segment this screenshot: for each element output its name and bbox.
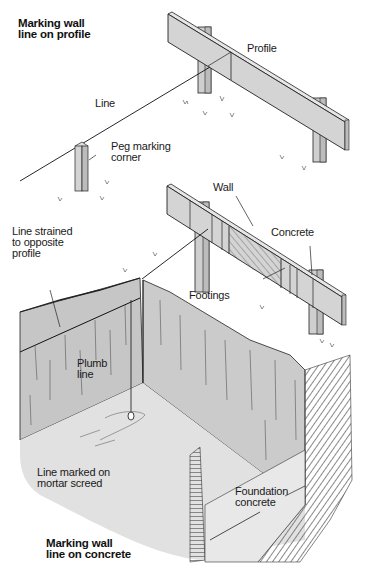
label-profile: Profile xyxy=(247,43,277,54)
label-plumb-line: Plumb line xyxy=(77,358,107,380)
label-foundation-concrete: Foundation concrete xyxy=(235,486,288,508)
label-peg-marking-corner: Peg marking corner xyxy=(111,141,171,163)
title-marking-on-profile: Marking wall line on profile xyxy=(18,18,90,40)
corner-peg xyxy=(75,142,96,191)
label-line-marked-screed: Line marked on mortar screed xyxy=(37,467,110,489)
excavation xyxy=(20,278,352,562)
label-line-strained: Line strained to opposite profile xyxy=(12,226,72,259)
label-footings: Footings xyxy=(189,290,230,301)
label-line: Line xyxy=(95,98,115,109)
title-marking-on-concrete: Marking wall line on concrete xyxy=(46,538,131,560)
label-concrete: Concrete xyxy=(271,227,314,238)
label-wall: Wall xyxy=(213,182,233,193)
